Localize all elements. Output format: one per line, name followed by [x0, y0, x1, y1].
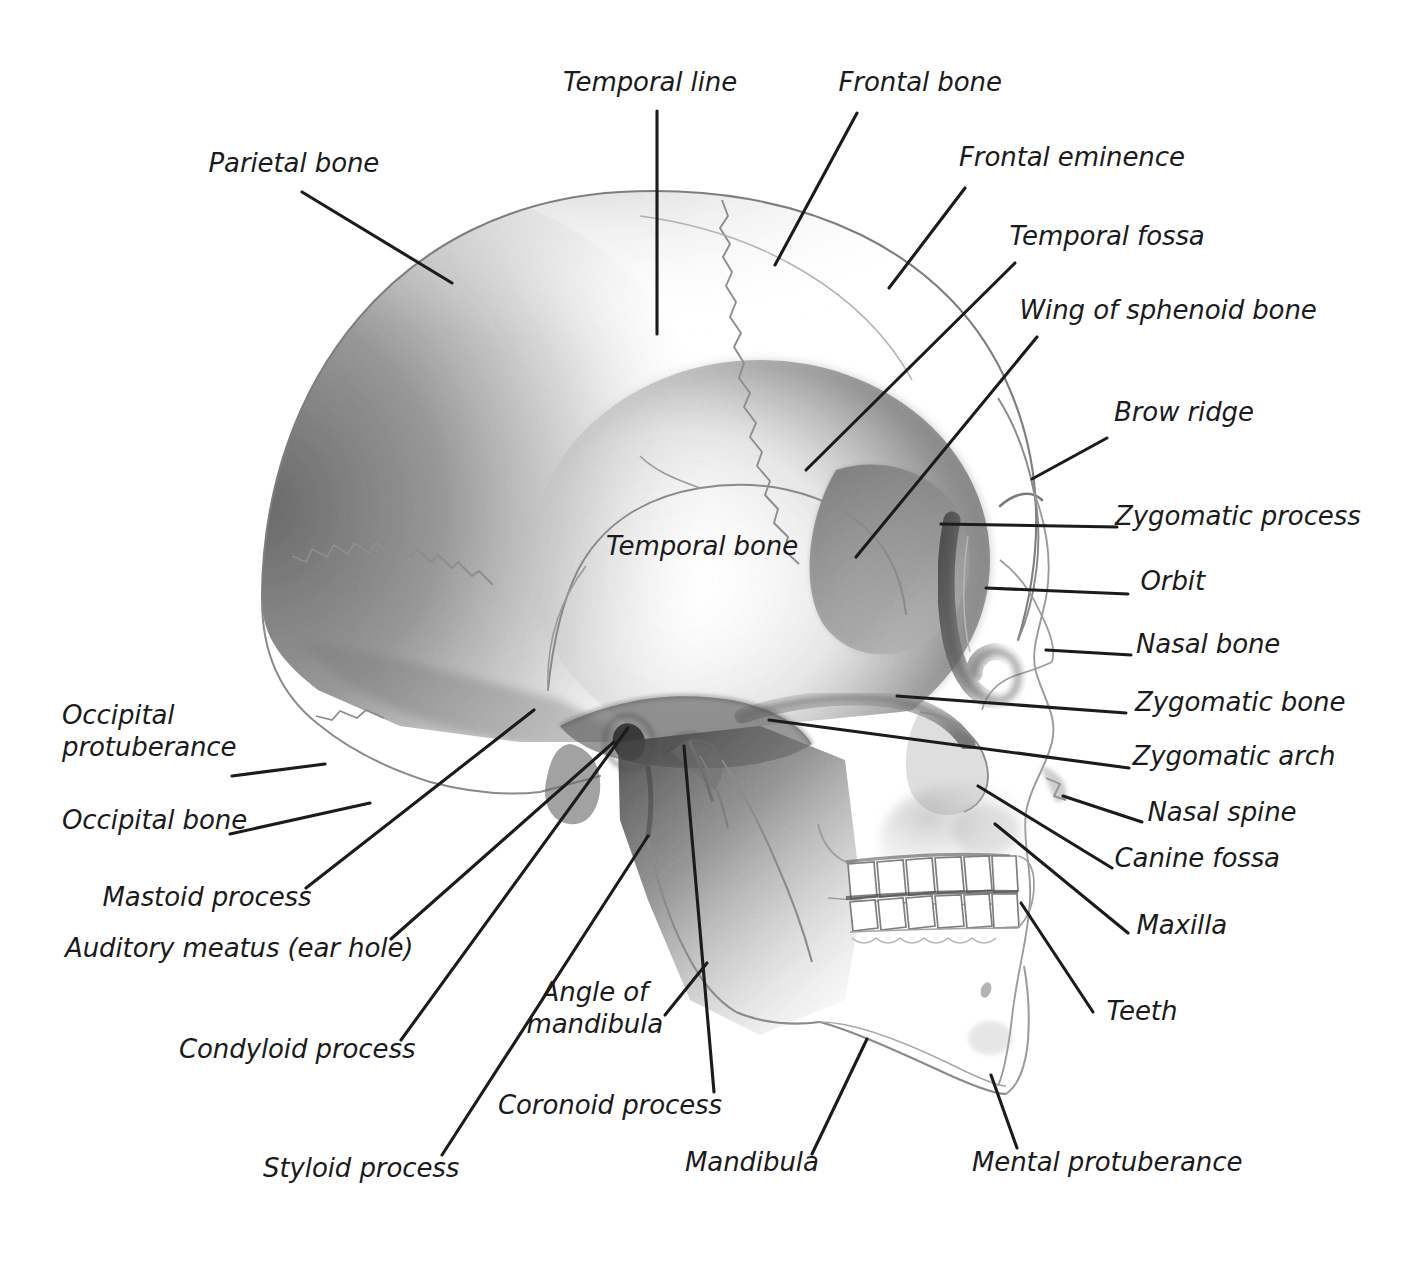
label-mastoid-process: Mastoid process: [103, 881, 312, 913]
label-temporal-line: Temporal line: [563, 66, 737, 98]
label-auditory-meatus: Auditory meatus (ear hole): [65, 932, 413, 964]
leader-parietal-bone: [302, 192, 452, 283]
label-temporal-fossa: Temporal fossa: [1010, 220, 1205, 252]
leader-occipital-protub: [232, 764, 325, 776]
label-canine-fossa: Canine fossa: [1115, 842, 1280, 874]
label-parietal-bone: Parietal bone: [209, 147, 380, 179]
label-coronoid-process: Coronoid process: [498, 1089, 722, 1121]
label-maxilla: Maxilla: [1137, 909, 1228, 941]
label-styloid-process: Styloid process: [263, 1152, 459, 1184]
leader-mandibula: [812, 1039, 867, 1154]
label-mental-protuberance: Mental protuberance: [972, 1146, 1242, 1178]
label-angle-of-mandibula: Angle of mandibula: [527, 976, 664, 1040]
label-orbit: Orbit: [1141, 565, 1206, 597]
leader-occipital-bone: [230, 803, 370, 834]
label-nasal-spine: Nasal spine: [1148, 796, 1297, 828]
label-nasal-bone: Nasal bone: [1136, 628, 1280, 660]
dentition-group: [818, 784, 1040, 943]
label-occipital-protuberance: Occipital protuberance: [62, 699, 236, 763]
label-zygomatic-process: Zygomatic process: [1115, 500, 1361, 532]
leader-frontal-eminence: [889, 188, 965, 288]
label-temporal-bone: Temporal bone: [606, 530, 798, 562]
figure-canvas: Temporal lineFrontal boneParietal boneFr…: [0, 0, 1401, 1264]
leader-orbit: [986, 588, 1128, 594]
label-wing-of-sphenoid: Wing of sphenoid bone: [1020, 294, 1317, 326]
label-brow-ridge: Brow ridge: [1114, 396, 1254, 428]
label-frontal-eminence: Frontal eminence: [959, 141, 1185, 173]
leader-brow-ridge: [1032, 438, 1107, 479]
label-teeth: Teeth: [1107, 995, 1178, 1027]
label-zygomatic-arch: Zygomatic arch: [1133, 740, 1336, 772]
leader-auditory-meatus: [391, 742, 614, 939]
leader-mastoid-process: [306, 710, 534, 888]
label-mandibula: Mandibula: [685, 1146, 819, 1178]
label-condyloid-process: Condyloid process: [179, 1033, 415, 1065]
label-frontal-bone: Frontal bone: [839, 66, 1002, 98]
label-occipital-bone: Occipital bone: [62, 804, 247, 836]
leader-nasal-bone: [1046, 650, 1131, 655]
label-zygomatic-bone: Zygomatic bone: [1135, 686, 1345, 718]
leader-nasal-spine: [1063, 796, 1142, 822]
leader-teeth: [1021, 903, 1093, 1012]
